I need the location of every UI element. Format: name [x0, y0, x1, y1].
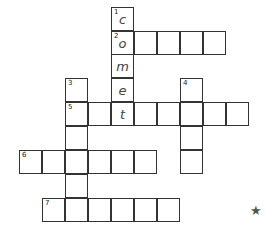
- crossword-cell[interactable]: [134, 198, 157, 222]
- cell-letter: o: [112, 37, 133, 50]
- crossword-cell[interactable]: [134, 31, 157, 55]
- crossword-cell[interactable]: [180, 102, 203, 126]
- crossword-cell[interactable]: [157, 31, 180, 55]
- crossword-cell[interactable]: 6: [19, 150, 42, 174]
- crossword-cell[interactable]: [157, 102, 180, 126]
- clue-number: 6: [22, 152, 26, 159]
- crossword-cell[interactable]: m: [111, 54, 134, 78]
- crossword-cell[interactable]: [65, 198, 88, 222]
- cell-letter: e: [112, 84, 133, 97]
- crossword-cell[interactable]: [65, 126, 88, 150]
- crossword-cell[interactable]: [88, 102, 111, 126]
- crossword-cell[interactable]: [111, 150, 134, 174]
- crossword-cell[interactable]: 1c: [111, 7, 134, 31]
- cell-letter: c: [112, 13, 133, 26]
- cell-letter: t: [112, 108, 133, 121]
- crossword-cell[interactable]: [157, 198, 180, 222]
- clue-number: 4: [183, 80, 187, 87]
- crossword-cell[interactable]: [226, 102, 249, 126]
- crossword-cell[interactable]: 5: [65, 102, 88, 126]
- crossword-cell[interactable]: [88, 198, 111, 222]
- crossword-cell[interactable]: [203, 102, 226, 126]
- crossword-cell[interactable]: [88, 150, 111, 174]
- crossword-cell[interactable]: [134, 150, 157, 174]
- clue-number: 3: [68, 80, 72, 87]
- crossword-cell[interactable]: [134, 102, 157, 126]
- cell-letter: m: [112, 60, 133, 73]
- crossword-cell[interactable]: [203, 31, 226, 55]
- crossword-cell[interactable]: [65, 174, 88, 198]
- crossword-cell[interactable]: [180, 126, 203, 150]
- crossword-cell[interactable]: [180, 31, 203, 55]
- crossword-cell[interactable]: [65, 150, 88, 174]
- crossword-cell[interactable]: 2o: [111, 31, 134, 55]
- star-icon: ★: [250, 203, 262, 218]
- crossword-cell[interactable]: [180, 150, 203, 174]
- crossword-cell[interactable]: [42, 150, 65, 174]
- clue-number: 5: [68, 104, 72, 111]
- crossword-cell[interactable]: 4: [180, 78, 203, 102]
- clue-number: 7: [45, 200, 49, 207]
- crossword-cell[interactable]: e: [111, 78, 134, 102]
- crossword-cell[interactable]: [111, 198, 134, 222]
- crossword-cell[interactable]: t: [111, 102, 134, 126]
- crossword-cell[interactable]: 3: [65, 78, 88, 102]
- crossword-cell[interactable]: 7: [42, 198, 65, 222]
